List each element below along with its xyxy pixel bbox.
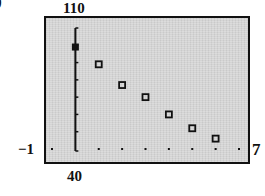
data-point (189, 125, 195, 131)
data-point (143, 94, 149, 100)
data-point (166, 111, 172, 117)
x-tick-dot (238, 148, 240, 150)
data-point (119, 82, 125, 88)
x-tick-dot (215, 148, 217, 150)
x-tick-dot (98, 148, 100, 150)
x-tick-dot (51, 148, 53, 150)
x-tick-dot (168, 148, 170, 150)
data-points (72, 44, 219, 142)
data-point (213, 136, 219, 142)
data-point (96, 61, 102, 67)
scatter-plot (0, 0, 265, 196)
x-tick-dot (145, 148, 147, 150)
x-tick-dot (121, 148, 123, 150)
axes (51, 28, 240, 151)
x-tick-dot (191, 148, 193, 150)
data-point-filled (72, 44, 79, 51)
